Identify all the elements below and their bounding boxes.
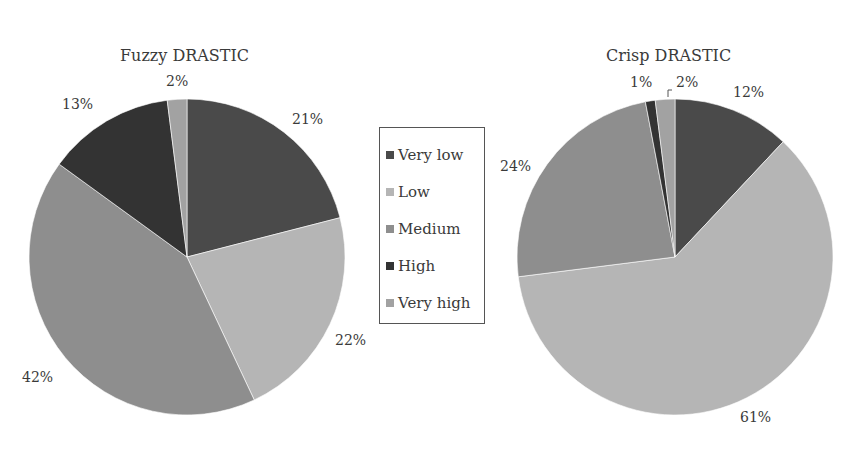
- label-crisp-very-high: 2%: [676, 74, 698, 90]
- legend-swatch-icon: [386, 188, 394, 196]
- label-fuzzy-medium: 42%: [22, 369, 53, 385]
- legend-item-low: Low: [386, 173, 484, 210]
- legend-label: Very high: [398, 294, 470, 312]
- label-crisp-high: 1%: [630, 74, 652, 90]
- legend: Very low Low Medium High Very high: [379, 127, 485, 324]
- chart-title-crisp: Crisp DRASTIC: [606, 46, 731, 65]
- legend-item-very-low: Very low: [386, 136, 484, 173]
- label-fuzzy-high: 13%: [62, 96, 93, 112]
- legend-label: Very low: [398, 146, 463, 164]
- label-crisp-medium: 24%: [500, 158, 531, 174]
- label-fuzzy-low: 22%: [335, 332, 366, 348]
- legend-label: Low: [398, 183, 430, 201]
- pie-fuzzy-drastic: [29, 99, 345, 415]
- legend-swatch-icon: [386, 262, 394, 270]
- legend-item-medium: Medium: [386, 210, 484, 247]
- legend-item-high: High: [386, 247, 484, 284]
- chart-title-fuzzy: Fuzzy DRASTIC: [120, 46, 249, 65]
- legend-swatch-icon: [386, 299, 394, 307]
- legend-swatch-icon: [386, 225, 394, 233]
- leader-line-very-high: [668, 90, 672, 97]
- legend-swatch-icon: [386, 151, 394, 159]
- legend-item-very-high: Very high: [386, 284, 484, 321]
- pie-crisp-drastic: [517, 99, 833, 415]
- legend-label: High: [398, 257, 435, 275]
- label-crisp-very-low: 12%: [733, 84, 764, 100]
- legend-label: Medium: [398, 220, 461, 238]
- label-fuzzy-very-high: 2%: [166, 73, 188, 89]
- label-fuzzy-very-low: 21%: [292, 111, 323, 127]
- label-crisp-low: 61%: [740, 409, 771, 425]
